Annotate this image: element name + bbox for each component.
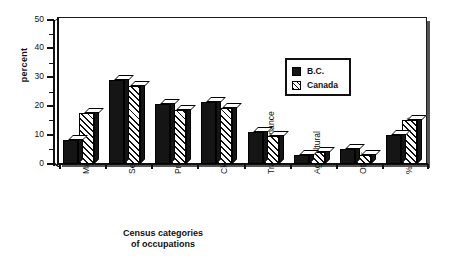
bar-top-face xyxy=(345,144,365,149)
hatched-square-swatch-icon xyxy=(292,81,301,90)
y-tick-major xyxy=(47,163,54,165)
bar-front-face xyxy=(201,102,216,164)
bar-front-face xyxy=(155,104,170,164)
bar-bc xyxy=(294,155,309,164)
bar-top-face xyxy=(269,131,289,136)
bar-side-face xyxy=(216,97,221,164)
bar-chart: 01020304050 percent ManufacturingService… xyxy=(0,0,452,267)
y-tick-minor xyxy=(49,34,54,35)
x-tick xyxy=(151,164,153,169)
bar-side-face xyxy=(279,131,284,164)
x-tick xyxy=(290,164,292,169)
y-tick-major xyxy=(47,19,54,21)
bar-top-face xyxy=(222,103,242,108)
legend-label-bc: B.C. xyxy=(307,67,324,76)
bar-side-face xyxy=(186,105,191,164)
bar-bc xyxy=(340,149,355,164)
bar-front-face xyxy=(340,149,355,164)
y-tick-label: 0 xyxy=(18,159,44,167)
bar-top-face xyxy=(407,115,427,120)
x-tick xyxy=(336,164,338,169)
bar-side-face xyxy=(94,108,99,164)
bar-top-face xyxy=(361,150,381,155)
bar-top-face xyxy=(176,105,196,110)
y-tick-major xyxy=(47,105,54,107)
bar-bc xyxy=(63,140,78,164)
x-tick xyxy=(105,164,107,169)
bar-bc xyxy=(201,102,216,164)
x-tick xyxy=(59,164,61,169)
x-axis-title-line2: of occupations xyxy=(88,239,238,250)
y-tick-major xyxy=(47,134,54,136)
y-tick-label: 50 xyxy=(18,15,44,23)
y-tick-major xyxy=(47,47,54,49)
y-tick-major xyxy=(47,76,54,78)
bar-front-face xyxy=(248,132,263,164)
bar-side-face xyxy=(170,99,175,164)
y-tick-minor xyxy=(49,63,54,64)
bar-bc xyxy=(386,135,401,164)
bar-side-face xyxy=(232,103,237,164)
y-tick-minor xyxy=(49,149,54,150)
legend-item-canada: Canada xyxy=(292,78,349,92)
bar-bc xyxy=(109,80,124,164)
x-tick xyxy=(244,164,246,169)
solid-square-swatch-icon xyxy=(292,67,301,76)
x-axis-title-line1: Census categories xyxy=(88,228,238,239)
y-tick-minor xyxy=(49,120,54,121)
bar-side-face xyxy=(124,75,129,164)
bar-front-face xyxy=(63,140,78,164)
bar-bc xyxy=(155,104,170,164)
bar-side-face xyxy=(140,81,145,164)
bar-bc xyxy=(248,132,263,164)
plot-area xyxy=(58,17,427,164)
legend-label-canada: Canada xyxy=(307,81,338,90)
plot-frame-right-shadow xyxy=(427,21,430,168)
y-axis-title: percent xyxy=(19,35,29,95)
bar-top-face xyxy=(206,97,226,102)
bar-top-face xyxy=(160,99,180,104)
bar-top-face xyxy=(84,108,104,113)
bar-side-face xyxy=(417,115,422,164)
x-tick xyxy=(382,164,384,169)
y-tick-label: 10 xyxy=(18,130,44,138)
bar-front-face xyxy=(294,155,309,164)
x-tick xyxy=(427,164,429,169)
bar-side-face xyxy=(263,127,268,164)
y-tick-minor xyxy=(49,92,54,93)
bar-top-face xyxy=(130,81,150,86)
x-axis-title: Census categories of occupations xyxy=(88,228,238,250)
legend-item-bc: B.C. xyxy=(292,64,349,78)
bar-front-face xyxy=(109,80,124,164)
bar-front-face xyxy=(386,135,401,164)
y-axis-line-outer xyxy=(53,20,55,166)
bar-top-face xyxy=(114,75,134,80)
x-tick xyxy=(197,164,199,169)
y-tick-label: 20 xyxy=(18,101,44,109)
legend: B.C. Canada xyxy=(285,58,351,96)
